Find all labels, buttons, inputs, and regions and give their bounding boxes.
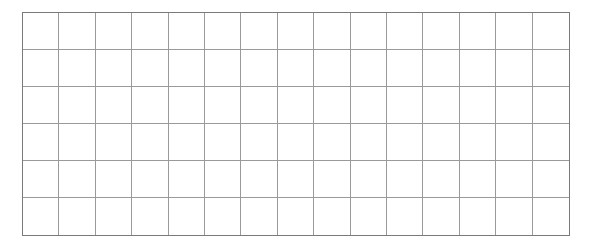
- grid-cell: [496, 198, 532, 235]
- grid-cell: [23, 161, 59, 198]
- grid-cell: [205, 87, 241, 124]
- grid-cell: [387, 87, 423, 124]
- grid-cell: [496, 13, 532, 50]
- grid-cell: [132, 198, 168, 235]
- grid-cell: [205, 13, 241, 50]
- grid-cell: [314, 198, 350, 235]
- grid-cell: [351, 50, 387, 87]
- grid-cell: [23, 124, 59, 161]
- grid-cell: [460, 87, 496, 124]
- grid-cell: [460, 124, 496, 161]
- grid-cell: [96, 198, 132, 235]
- grid-cell: [387, 161, 423, 198]
- grid-cell: [460, 198, 496, 235]
- grid-cell: [351, 161, 387, 198]
- grid-cell: [23, 198, 59, 235]
- grid-cell: [533, 198, 569, 235]
- grid-cell: [496, 50, 532, 87]
- grid-cell: [278, 198, 314, 235]
- grid-cell: [132, 13, 168, 50]
- grid-cell: [169, 124, 205, 161]
- grid-cell: [533, 87, 569, 124]
- grid-cell: [132, 50, 168, 87]
- empty-grid: [22, 12, 570, 236]
- grid-cell: [23, 87, 59, 124]
- grid-cell: [241, 198, 277, 235]
- grid-cell: [169, 50, 205, 87]
- grid-cell: [205, 124, 241, 161]
- grid-cell: [241, 161, 277, 198]
- grid-cell: [423, 87, 459, 124]
- grid-cell: [423, 161, 459, 198]
- grid-cell: [351, 124, 387, 161]
- grid-cell: [169, 161, 205, 198]
- grid-cell: [314, 87, 350, 124]
- grid-cell: [278, 161, 314, 198]
- grid-cell: [423, 198, 459, 235]
- grid-cell: [460, 13, 496, 50]
- grid-cell: [278, 50, 314, 87]
- grid-cell: [169, 13, 205, 50]
- grid-cell: [169, 198, 205, 235]
- grid-cell: [314, 161, 350, 198]
- grid-cell: [533, 161, 569, 198]
- grid-cell: [59, 198, 95, 235]
- grid-cell: [96, 124, 132, 161]
- grid-cell: [59, 124, 95, 161]
- grid-cell: [241, 13, 277, 50]
- grid-cell: [387, 13, 423, 50]
- grid-cell: [23, 13, 59, 50]
- grid-cell: [533, 124, 569, 161]
- grid-cell: [132, 124, 168, 161]
- grid-cell: [423, 13, 459, 50]
- grid-cell: [59, 87, 95, 124]
- grid-cell: [314, 13, 350, 50]
- grid-cell: [533, 13, 569, 50]
- grid-cell: [169, 87, 205, 124]
- grid-cell: [278, 13, 314, 50]
- grid-cell: [387, 124, 423, 161]
- grid-cell: [59, 50, 95, 87]
- grid-cell: [496, 161, 532, 198]
- grid-cell: [423, 124, 459, 161]
- grid-cell: [351, 13, 387, 50]
- grid-cell: [460, 50, 496, 87]
- grid-cell: [496, 124, 532, 161]
- grid-cell: [241, 50, 277, 87]
- grid-cell: [59, 161, 95, 198]
- grid-cell: [351, 87, 387, 124]
- grid-cell: [96, 161, 132, 198]
- grid-cell: [205, 50, 241, 87]
- grid-cell: [205, 198, 241, 235]
- grid-cell: [314, 124, 350, 161]
- grid-cell: [423, 50, 459, 87]
- grid-cell: [387, 50, 423, 87]
- grid-cell: [96, 50, 132, 87]
- grid-cell: [96, 87, 132, 124]
- grid-cell: [241, 87, 277, 124]
- grid-cell: [278, 124, 314, 161]
- grid-cell: [132, 161, 168, 198]
- grid-cell: [496, 87, 532, 124]
- grid-cell: [241, 124, 277, 161]
- grid-cell: [96, 13, 132, 50]
- grid-cell: [387, 198, 423, 235]
- grid-cell: [278, 87, 314, 124]
- grid-cell: [533, 50, 569, 87]
- grid-cell: [59, 13, 95, 50]
- grid-cell: [205, 161, 241, 198]
- grid-cell: [314, 50, 350, 87]
- grid-cell: [132, 87, 168, 124]
- grid-cell: [460, 161, 496, 198]
- grid-cell: [23, 50, 59, 87]
- grid-cell: [351, 198, 387, 235]
